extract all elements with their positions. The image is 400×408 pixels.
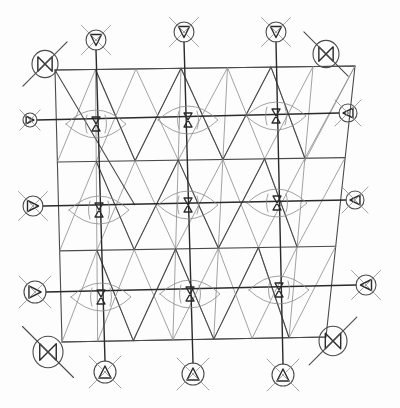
eye-bracket <box>178 111 180 129</box>
eye-bracket <box>286 194 288 212</box>
diagonal-line <box>62 250 97 342</box>
corner-bottom-right-symbol <box>309 317 357 365</box>
eye-bracket <box>108 201 110 219</box>
top-1-symbol <box>82 26 111 55</box>
eye-bracket <box>180 285 182 303</box>
lattice-drawing <box>0 0 400 408</box>
diagonal-line <box>297 158 345 247</box>
slash-line <box>304 32 348 76</box>
zigzag-line <box>223 159 259 247</box>
top-2-symbol <box>170 18 199 47</box>
slash-line <box>309 317 357 365</box>
corner-symbols <box>23 32 357 378</box>
left-2-symbol <box>19 192 48 221</box>
zigzag-line <box>271 67 305 158</box>
eye-bracket <box>266 107 268 125</box>
bottom-2-symbol <box>177 358 209 390</box>
bottom-3-symbol <box>267 359 299 391</box>
eye-node <box>69 196 129 224</box>
hourglass-icon <box>272 109 280 123</box>
zigzag-line <box>96 69 136 160</box>
left-3-symbol <box>19 276 51 308</box>
zigzag-line <box>96 69 136 161</box>
hourglass-icon <box>184 113 192 127</box>
zigzag-line <box>218 248 252 338</box>
eye-bracket <box>89 201 91 219</box>
eye-bracket <box>178 196 180 214</box>
eye-node <box>71 283 131 311</box>
corner-bottom-left-symbol <box>23 327 74 378</box>
eye-bracket <box>197 196 199 214</box>
top-3-symbol <box>262 18 291 47</box>
zigzag-line <box>218 159 264 248</box>
main-axes <box>37 42 356 364</box>
eye-bracket <box>197 111 199 129</box>
eye-node <box>249 276 309 304</box>
zigzag-line <box>214 248 259 340</box>
eye-bracket <box>269 281 271 299</box>
corner-top-right-symbol <box>304 32 348 76</box>
sub-horizontal-line <box>55 66 355 70</box>
sub-horizontal-line <box>62 337 326 342</box>
zigzag-line <box>223 67 271 159</box>
eye-bracket <box>288 281 290 299</box>
right-1-symbol <box>335 100 361 126</box>
bottom-1-symbol <box>89 356 121 388</box>
eye-bracket <box>267 194 269 212</box>
horizontal-axis <box>46 285 356 292</box>
slash-line <box>23 327 74 378</box>
left-1-symbol <box>20 110 40 130</box>
right-2-symbol <box>342 187 368 213</box>
zigzag-line <box>176 249 214 339</box>
right-3-symbol <box>352 271 381 300</box>
sub-horizontal-line <box>57 158 345 162</box>
corner-diagonal <box>55 70 135 205</box>
diagram-canvas: Hand-drawn pencil sketch of a square lat… <box>0 0 400 408</box>
zigzag-line <box>176 159 223 248</box>
eye-node <box>246 102 306 130</box>
zigzag-line <box>258 248 289 338</box>
zigzag-line <box>228 68 265 159</box>
